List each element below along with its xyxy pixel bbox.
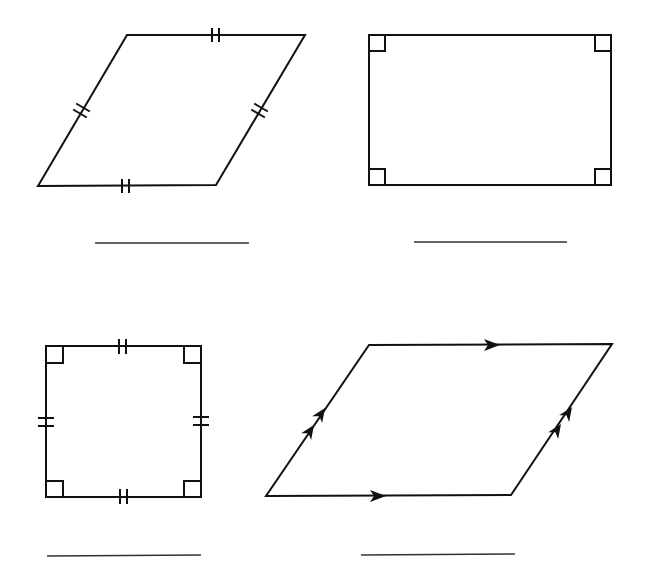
answer-field-parallelogram[interactable]: [361, 533, 515, 553]
square-figure: [39, 340, 208, 503]
answer-field-rectangle[interactable]: [414, 221, 567, 241]
rectangle-figure: [369, 35, 611, 185]
parallelogram-figure: [266, 344, 612, 496]
parallel-arrows: [301, 339, 577, 502]
answer-field-rhombus[interactable]: [95, 222, 249, 242]
answer-line-parallelogram: [361, 554, 515, 555]
rhombus-figure: [38, 29, 305, 192]
answer-line-square: [47, 555, 201, 556]
answer-field-square[interactable]: [47, 534, 201, 554]
shapes-canvas: [0, 0, 653, 578]
